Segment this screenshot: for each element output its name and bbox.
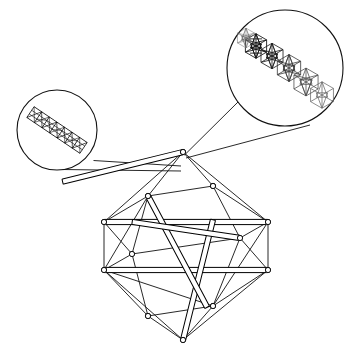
hierarchical-tensegrity-diagram bbox=[0, 0, 354, 354]
strut-joint bbox=[265, 219, 270, 224]
strut-horizontal-upper bbox=[101, 219, 270, 224]
strut-joint bbox=[129, 251, 134, 256]
strut-joint bbox=[101, 219, 106, 224]
figure-root bbox=[0, 0, 354, 354]
strut-joint bbox=[265, 267, 270, 272]
strut-joint bbox=[145, 313, 150, 318]
strut-joint bbox=[210, 183, 215, 188]
strut-joint bbox=[210, 303, 215, 308]
strut-joint bbox=[145, 193, 150, 198]
strut-joint bbox=[101, 267, 106, 272]
strut-joint bbox=[237, 235, 242, 240]
strut-joint bbox=[180, 149, 185, 154]
callout-icosahedra-chain bbox=[227, 10, 343, 126]
callout-circle-right bbox=[227, 10, 343, 126]
strut-joint bbox=[180, 337, 185, 342]
callout-strut-lattice bbox=[17, 90, 97, 170]
